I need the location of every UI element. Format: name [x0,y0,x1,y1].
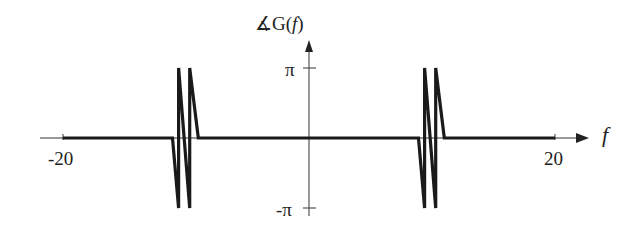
y-axis-arrow-icon [305,40,313,52]
y-axis-title-close: ) [297,13,303,34]
x-axis-title: f [602,124,608,146]
x-tick-label-neg20: -20 [48,149,73,168]
x-tick-label-20: 20 [544,149,563,168]
y-tick-label-pi: π [285,60,295,79]
y-axis-title-prefix: ∡G( [255,13,292,34]
phase-plot [0,0,637,227]
y-axis-title: ∡G(f) [255,14,304,33]
y-tick-label-neg-pi: -π [276,200,292,219]
x-axis-arrow-icon [576,133,589,143]
